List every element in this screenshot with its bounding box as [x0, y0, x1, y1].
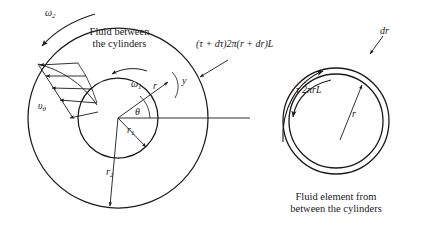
dr-label: dr	[380, 25, 389, 37]
y-coordinate-label: y	[182, 75, 186, 87]
right-caption-line2: between the cylinders	[260, 203, 412, 215]
radius-r1-label: r1	[127, 124, 134, 137]
dr-pointer-arrow	[370, 36, 383, 54]
omega2-label: ω2	[45, 7, 56, 20]
element-radius-label: r	[352, 108, 356, 120]
outer-shear-arc-arrow	[283, 71, 323, 142]
radius-r1-subscript: 1	[131, 129, 135, 137]
omega1-arrow	[112, 69, 147, 74]
element-radius-arrow	[340, 85, 362, 140]
omega2-subscript: 2	[52, 12, 56, 20]
theta-angle-arc	[140, 96, 150, 118]
velocity-ladder-2	[86, 76, 92, 89]
left-caption-line2: the cylinders	[72, 38, 167, 50]
right-caption-line1: Fluid element from	[260, 191, 412, 203]
radius-r2-label: r2	[106, 166, 113, 179]
shear-stress-pointer-arrow	[200, 60, 228, 77]
omega1-label: ω1	[131, 78, 142, 91]
velocity-arrow-5	[70, 112, 98, 118]
radius-r-label: r	[153, 80, 157, 92]
velocity-profile-subscript: θ	[43, 105, 46, 113]
figure-canvas: ω2 Fluid between the cylinders ω1 υθ r y…	[0, 0, 424, 234]
radius-r2-subscript: 2	[110, 171, 114, 179]
velocity-profile-envelope	[38, 64, 97, 105]
velocity-arrow-4	[60, 100, 97, 103]
y-direction-arc	[172, 72, 178, 98]
right-diagram-group	[283, 36, 389, 174]
omega1-subscript: 1	[138, 83, 142, 91]
radius-r2-arrow	[110, 118, 118, 206]
left-caption-line1: Fluid between	[72, 26, 167, 38]
velocity-ladder-1	[78, 63, 86, 76]
theta-label: θ	[135, 106, 140, 118]
velocity-arrow-3	[52, 88, 92, 89]
velocity-profile-label: υθ	[38, 100, 46, 113]
outer-shear-stress-label: (τ + dτ)2π(r + dr)L	[196, 38, 273, 50]
inner-shear-stress-label: τ 2πrL	[296, 84, 322, 96]
